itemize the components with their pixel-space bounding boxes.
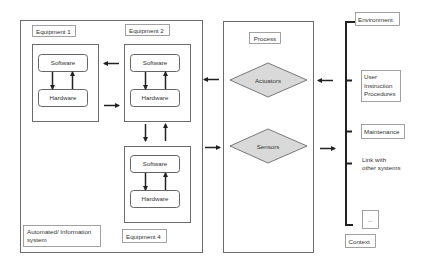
equipment-4-hardware-label: Hardware — [142, 195, 169, 202]
process-label: Process — [254, 35, 276, 42]
context-item-user-instruction: User Instruction Procedures — [362, 71, 401, 102]
environment-label: Environment — [358, 16, 393, 23]
automated-system-label-line-2: system — [27, 236, 47, 243]
actuators-label: Actuators — [255, 77, 281, 84]
user-instruction-line-3: Procedures — [364, 90, 396, 97]
automated-system-label-line-1: Automated/ Information — [27, 228, 92, 235]
context-label: Context — [346, 235, 376, 248]
context-label-text: Context — [349, 238, 371, 245]
user-instruction-line-1: User — [364, 73, 377, 80]
automated-system-label: Automated/ Information system — [24, 226, 101, 247]
user-instruction-line-2: Instruction — [364, 82, 393, 89]
equipment-4-software-label: Software — [143, 160, 168, 167]
equipment-2-software-label: Software — [143, 59, 168, 66]
equipment-1-label: Equipment 1 — [36, 28, 71, 35]
context-item-maintenance: Maintenance — [362, 125, 405, 139]
ellipsis-label: ... — [368, 216, 373, 223]
equipment-1-software-label: Software — [51, 59, 76, 66]
context-item-ellipsis: ... — [363, 211, 379, 229]
context-bracket — [345, 22, 355, 226]
system-context-diagram: Equipment 1 Software Hardware Equipment … — [0, 0, 424, 266]
link-line-1: Link with — [362, 156, 387, 163]
equipment-2-hardware-label: Hardware — [142, 94, 169, 101]
process: Process Actuators Sensors — [224, 22, 314, 253]
equipment-4-label: Equipment 4 — [126, 233, 161, 240]
equipment-2-label: Equipment 2 — [129, 27, 164, 34]
maintenance-label: Maintenance — [364, 128, 400, 135]
context-item-link-other-systems: Link with other systems — [362, 156, 401, 171]
sensors-label: Sensors — [257, 143, 280, 150]
link-line-2: other systems — [362, 164, 401, 171]
context-item-environment: Environment — [356, 13, 400, 26]
equipment-1-hardware-label: Hardware — [50, 94, 77, 101]
